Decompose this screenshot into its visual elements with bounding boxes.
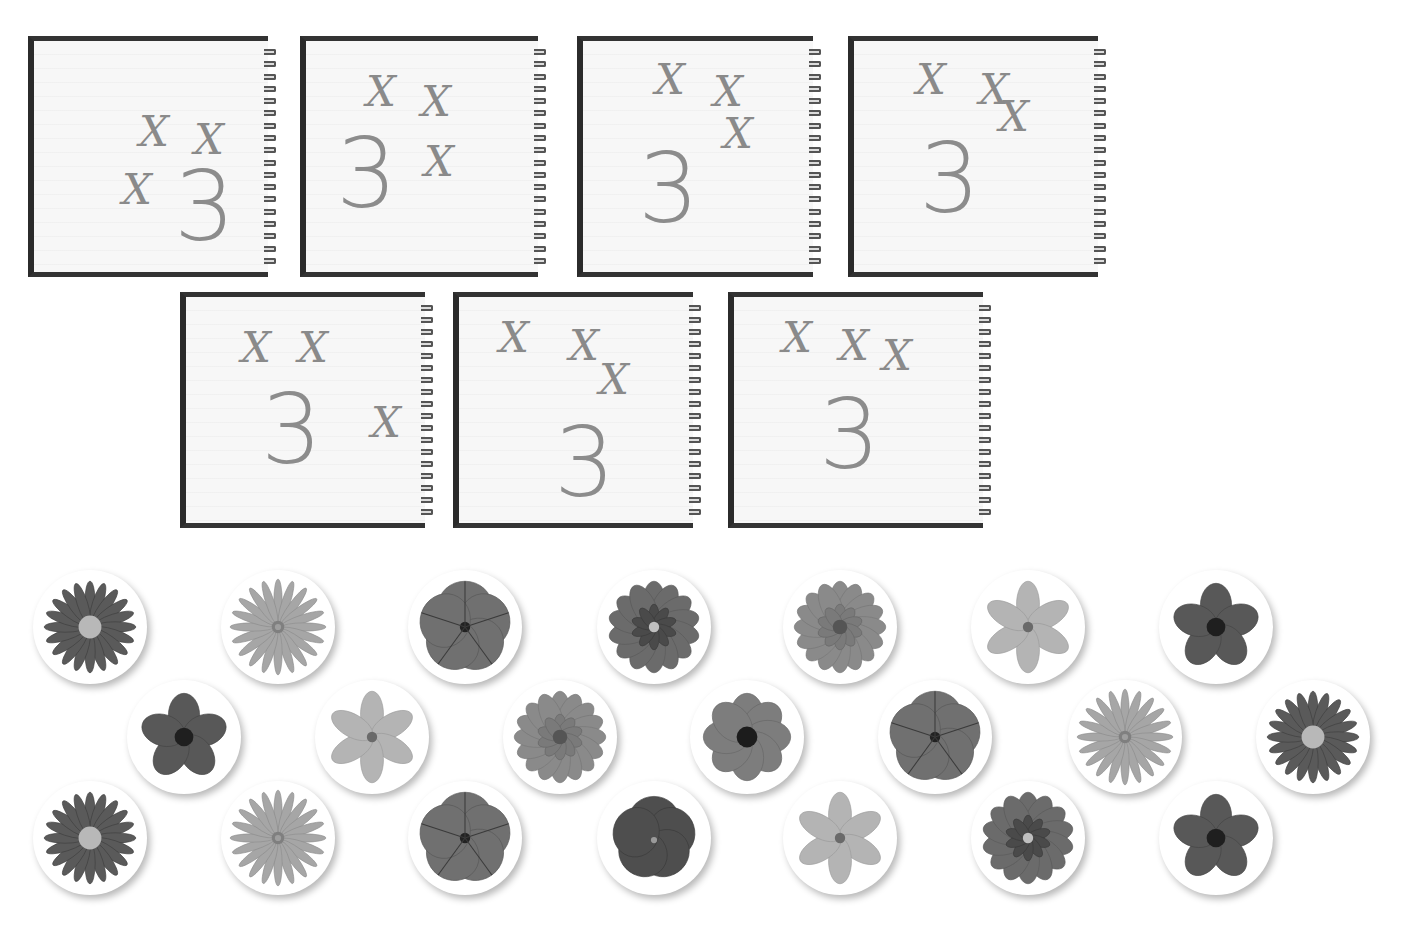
- flower-counter-petunia: [408, 781, 522, 895]
- flower-counter-dahlia: [597, 570, 711, 684]
- notebook-2: XXX3: [300, 36, 538, 277]
- spiral-binding: [1094, 49, 1108, 264]
- flower-icon: [413, 575, 517, 679]
- spiral-binding: [689, 305, 703, 515]
- tally-mark-x: X: [655, 59, 685, 101]
- flower-icon: [602, 575, 706, 679]
- flower-counter-gerbera-dark: [33, 570, 147, 684]
- spiral-binding: [421, 305, 435, 515]
- tally-mark-x: X: [713, 71, 743, 113]
- spiral-binding: [979, 305, 993, 515]
- tally-mark-x: X: [782, 317, 812, 359]
- flower-icon: [132, 685, 236, 789]
- flower-icon: [788, 575, 892, 679]
- handwritten-number: 3: [638, 141, 699, 237]
- tally-mark-x: X: [839, 325, 869, 367]
- tally-mark-x: X: [139, 111, 169, 153]
- handwritten-number: 3: [819, 387, 880, 483]
- tally-mark-x: X: [241, 327, 271, 369]
- flower-counter-star-flower-light: [971, 570, 1085, 684]
- tally-mark-x: X: [723, 113, 753, 155]
- flower-counter-pansy: [597, 781, 711, 895]
- flower-icon: [695, 685, 799, 789]
- flower-icon: [1073, 685, 1177, 789]
- flower-counter-anemone-centered: [690, 680, 804, 794]
- handwritten-number: 3: [919, 131, 980, 227]
- tally-mark-x: X: [298, 327, 328, 369]
- spiral-binding: [534, 49, 548, 264]
- flower-icon: [320, 685, 424, 789]
- flower-counter-gerbera-dark: [33, 781, 147, 895]
- flower-counter-star-flower-light: [783, 781, 897, 895]
- flower-counter-daisy-light: [1068, 680, 1182, 794]
- flower-counter-gerbera-dark: [1256, 680, 1370, 794]
- flower-counter-anemone-dark: [1159, 570, 1273, 684]
- flower-counter-zinnia: [783, 570, 897, 684]
- notebook-1: XXX3: [28, 36, 268, 277]
- flower-icon: [226, 786, 330, 890]
- flower-icon: [1261, 685, 1365, 789]
- tally-mark-x: X: [882, 335, 912, 377]
- notebook-6: XXX3: [453, 292, 693, 528]
- flower-counter-anemone-dark: [127, 680, 241, 794]
- flower-icon: [38, 786, 142, 890]
- handwritten-number: 3: [336, 126, 397, 222]
- flower-icon: [976, 786, 1080, 890]
- flower-counter-petunia: [408, 570, 522, 684]
- notebook-7: XXX3: [728, 292, 983, 528]
- tally-mark-x: X: [122, 169, 152, 211]
- handwritten-number: 3: [174, 159, 235, 255]
- flower-icon: [883, 685, 987, 789]
- flower-counter-dahlia: [971, 781, 1085, 895]
- flower-counter-star-flower-light: [315, 680, 429, 794]
- flower-icon: [788, 786, 892, 890]
- flower-icon: [1164, 575, 1268, 679]
- spiral-binding: [264, 49, 278, 264]
- flower-icon: [1164, 786, 1268, 890]
- flower-counter-anemone-dark: [1159, 781, 1273, 895]
- flower-icon: [38, 575, 142, 679]
- notebook-3: XXX3: [577, 36, 813, 277]
- tally-mark-x: X: [424, 141, 454, 183]
- tally-mark-x: X: [916, 59, 946, 101]
- tally-mark-x: X: [599, 359, 629, 401]
- flower-counter-petunia: [878, 680, 992, 794]
- flower-counter-zinnia: [503, 680, 617, 794]
- tally-mark-x: X: [366, 71, 396, 113]
- tally-mark-x: X: [371, 402, 401, 444]
- notebook-5: XXX3: [180, 292, 425, 528]
- spiral-binding: [809, 49, 823, 264]
- handwritten-number: 3: [554, 415, 615, 511]
- flower-counter-daisy-light: [221, 781, 335, 895]
- flower-icon: [976, 575, 1080, 679]
- tally-mark-x: X: [499, 317, 529, 359]
- handwritten-number: 3: [261, 382, 322, 478]
- flower-icon: [413, 786, 517, 890]
- notebook-4: XXX3: [848, 36, 1098, 277]
- tally-mark-x: X: [569, 325, 599, 367]
- flower-icon: [508, 685, 612, 789]
- flower-icon: [602, 786, 706, 890]
- tally-mark-x: X: [421, 81, 451, 123]
- flower-icon: [226, 575, 330, 679]
- flower-counter-daisy-light: [221, 570, 335, 684]
- tally-mark-x: X: [999, 96, 1029, 138]
